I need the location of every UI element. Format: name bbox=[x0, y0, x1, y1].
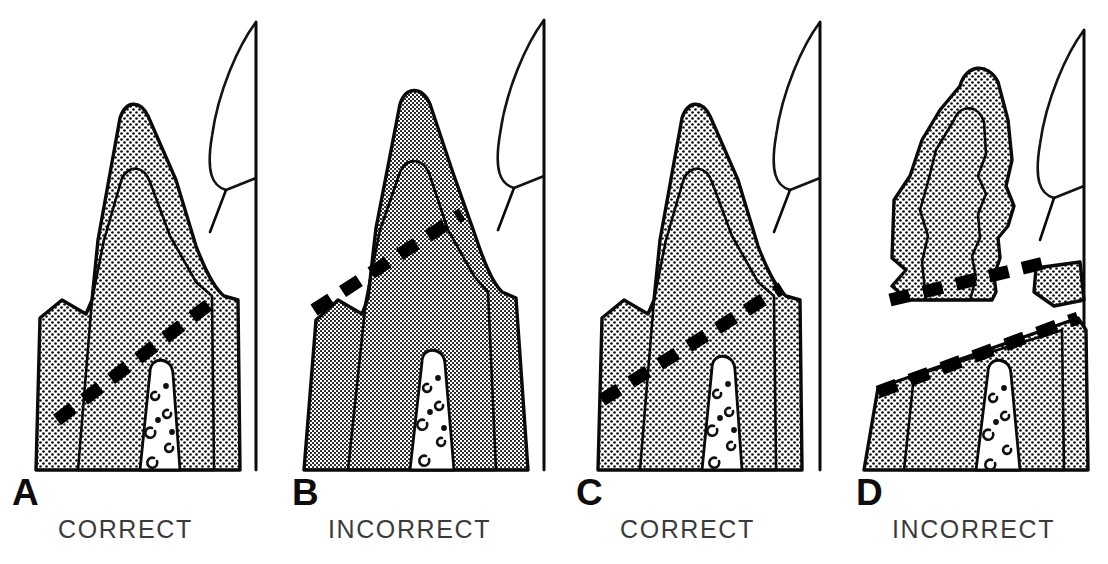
panel-letter-b: B bbox=[292, 472, 319, 513]
panel-letter-c: C bbox=[576, 472, 603, 513]
panel-letter-d: D bbox=[856, 472, 883, 513]
panel-caption-d: INCORRECT bbox=[892, 515, 1055, 543]
panel-caption-a: CORRECT bbox=[58, 515, 193, 543]
clipped-footer-text bbox=[0, 553, 1108, 564]
tooth-preparation-figure: A CORRECT B INCORRECT bbox=[0, 0, 1108, 564]
panel-caption-c: CORRECT bbox=[620, 515, 755, 543]
panel-letter-a: A bbox=[12, 472, 39, 513]
panel-caption-b: INCORRECT bbox=[328, 515, 491, 543]
